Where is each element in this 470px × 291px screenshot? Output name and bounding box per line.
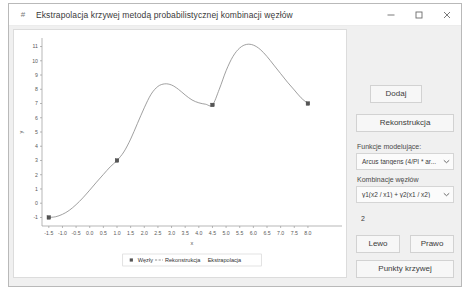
node-combination-label: Kombinacje węzłów	[357, 176, 418, 183]
controls-panel: Dodaj Rekonstrukcja Funkcje modelujące: …	[353, 29, 457, 278]
svg-text:Rekonstrukcja: Rekonstrukcja	[165, 257, 201, 263]
svg-text:4.5: 4.5	[209, 230, 216, 236]
node-combination-select[interactable]: y1(x2 / x1) + y2(x1 / x2)	[356, 186, 454, 203]
svg-text:10: 10	[32, 58, 38, 64]
plot-tick-labels: -101234567891011-1.5-1.0-0.50.00.51.01.5…	[18, 43, 312, 246]
node-combination-value: y1(x2 / x1) + y2(x1 / x2)	[357, 191, 440, 198]
svg-text:-1: -1	[33, 214, 38, 220]
title-bar: # Ekstrapolacja krzywej metodą probabili…	[9, 4, 461, 26]
modeling-functions-label: Funkcje modelujące:	[357, 143, 421, 150]
svg-text:0: 0	[35, 200, 38, 206]
svg-text:5: 5	[35, 129, 38, 135]
svg-text:2.5: 2.5	[154, 230, 161, 236]
modeling-functions-value: Arcus tangens (4/PI * ar...	[357, 158, 440, 165]
svg-text:-1.5: -1.5	[44, 230, 53, 236]
svg-text:Ekstrapolacja: Ekstrapolacja	[208, 257, 242, 263]
modeling-functions-select[interactable]: Arcus tangens (4/PI * ar...	[356, 153, 454, 170]
plot-nodes[interactable]	[47, 102, 310, 220]
svg-text:4: 4	[35, 143, 38, 149]
reconstruct-button[interactable]: Rekonstrukcja	[356, 114, 454, 132]
svg-text:1.0: 1.0	[113, 230, 120, 236]
svg-text:2.0: 2.0	[141, 230, 148, 236]
app-window: # Ekstrapolacja krzywej metodą probabili…	[8, 3, 462, 287]
svg-text:8: 8	[35, 86, 38, 92]
svg-text:Węzły: Węzły	[138, 257, 153, 263]
add-button[interactable]: Dodaj	[370, 85, 422, 103]
svg-text:1: 1	[35, 186, 38, 192]
svg-text:3.5: 3.5	[182, 230, 189, 236]
plot-panel: -101234567891011-1.5-1.0-0.50.00.51.01.5…	[13, 29, 347, 278]
plot-canvas[interactable]: -101234567891011-1.5-1.0-0.50.00.51.01.5…	[14, 30, 346, 277]
svg-text:x: x	[191, 240, 194, 246]
chevron-down-icon	[440, 192, 453, 197]
app-icon: #	[16, 8, 30, 22]
plot-axes	[40, 38, 342, 228]
svg-text:5.0: 5.0	[222, 230, 229, 236]
left-button[interactable]: Lewo	[356, 235, 400, 253]
svg-text:8.0: 8.0	[304, 230, 311, 236]
window-content: -101234567891011-1.5-1.0-0.50.00.51.01.5…	[9, 26, 461, 286]
chevron-down-icon	[440, 159, 453, 164]
svg-text:-1.0: -1.0	[58, 230, 67, 236]
svg-text:3.0: 3.0	[168, 230, 175, 236]
close-button[interactable]	[433, 4, 461, 25]
svg-text:11: 11	[33, 43, 38, 49]
svg-text:9: 9	[35, 72, 38, 78]
svg-text:0.5: 0.5	[100, 230, 107, 236]
window-title: Ekstrapolacja krzywej metodą probabilist…	[36, 10, 377, 20]
maximize-button[interactable]	[405, 4, 433, 25]
svg-text:-0.5: -0.5	[72, 230, 81, 236]
svg-text:6.5: 6.5	[263, 230, 270, 236]
svg-text:2: 2	[35, 172, 38, 178]
svg-text:6: 6	[35, 115, 38, 121]
plot-series	[49, 44, 308, 217]
curve-points-button[interactable]: Punkty krzywej	[356, 260, 454, 278]
svg-text:7.0: 7.0	[277, 230, 284, 236]
minimize-button[interactable]	[377, 4, 405, 25]
svg-text:7: 7	[35, 100, 38, 106]
svg-text:3: 3	[35, 157, 38, 163]
right-button[interactable]: Prawo	[410, 235, 454, 253]
svg-text:6.0: 6.0	[250, 230, 257, 236]
svg-text:0.0: 0.0	[86, 230, 93, 236]
plot-legend: WęzłyRekonstrukcjaEkstrapolacja	[123, 254, 262, 266]
count-input[interactable]: 2	[356, 211, 454, 226]
svg-text:4.0: 4.0	[195, 230, 202, 236]
svg-text:y: y	[18, 130, 24, 133]
svg-text:1.5: 1.5	[127, 230, 134, 236]
svg-text:7.5: 7.5	[291, 230, 298, 236]
svg-text:5.5: 5.5	[236, 230, 243, 236]
